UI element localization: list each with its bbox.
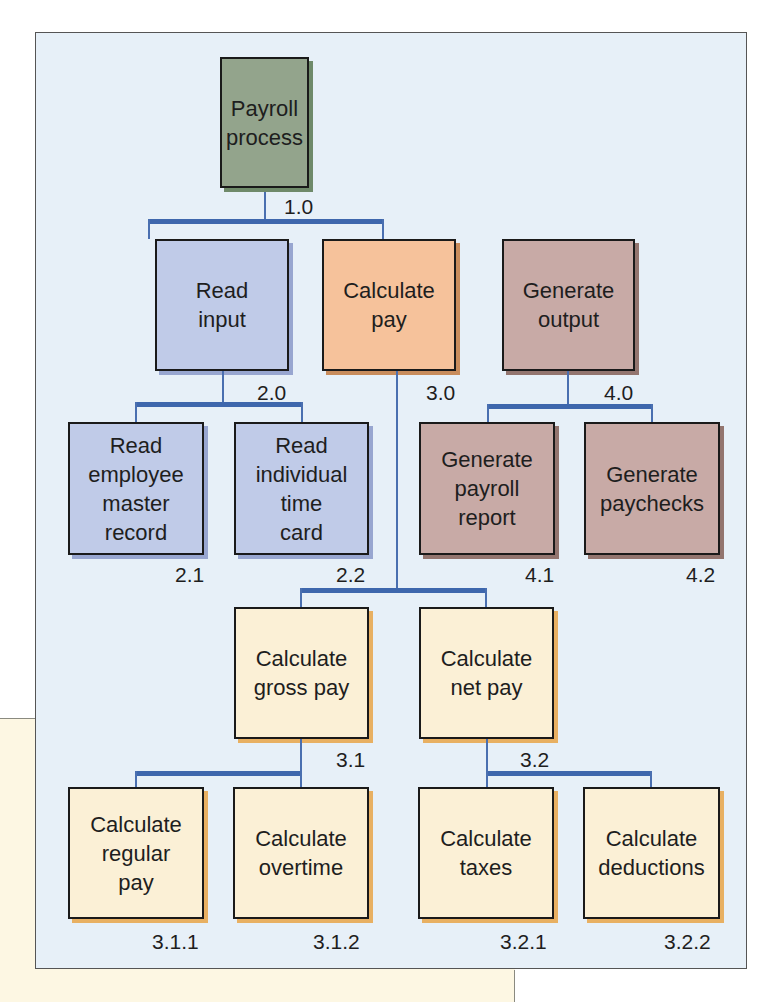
- node-number: 3.1: [336, 748, 365, 772]
- node-label: Read input: [196, 276, 249, 334]
- connector: [486, 739, 488, 775]
- connector: [300, 588, 486, 593]
- node-label: Calculate net pay: [441, 644, 533, 702]
- node-number: 2.2: [336, 563, 365, 587]
- node-calculate-gross: Calculate gross pay: [234, 607, 369, 739]
- node-generate-output: Generate output: [502, 239, 635, 371]
- node-label: Read employee master record: [88, 431, 183, 547]
- node-number: 3.2.2: [664, 930, 711, 954]
- node-number: 3.1.1: [152, 930, 199, 954]
- node-calculate-deductions: Calculate deductions: [583, 787, 720, 919]
- node-label: Generate output: [523, 276, 615, 334]
- node-read-time-card: Read individual time card: [234, 422, 369, 555]
- connector: [396, 371, 398, 590]
- connector: [485, 588, 487, 608]
- connector: [148, 219, 384, 224]
- node-label: Calculate regular pay: [90, 810, 182, 897]
- connector: [135, 402, 137, 423]
- node-number: 3.0: [426, 381, 455, 405]
- node-calculate-overtime: Calculate overtime: [233, 787, 369, 919]
- node-calculate-pay: Calculate pay: [322, 239, 456, 371]
- node-label: Calculate overtime: [255, 824, 347, 882]
- node-generate-paychecks: Generate paychecks: [584, 422, 720, 555]
- connector: [487, 404, 489, 424]
- connector: [148, 219, 150, 239]
- node-label: Payroll process: [226, 94, 303, 152]
- node-label: Generate payroll report: [441, 445, 533, 532]
- node-label: Calculate deductions: [598, 824, 704, 882]
- connector: [264, 188, 266, 221]
- node-number: 4.0: [604, 381, 633, 405]
- node-number: 2.1: [175, 563, 204, 587]
- node-generate-report: Generate payroll report: [419, 422, 555, 555]
- node-label: Read individual time card: [256, 431, 348, 547]
- connector: [301, 402, 303, 423]
- node-label: Calculate gross pay: [254, 644, 349, 702]
- connector: [567, 371, 569, 405]
- node-number: 1.0: [284, 195, 313, 219]
- node-number: 4.2: [686, 563, 715, 587]
- node-read-input: Read input: [155, 239, 289, 371]
- connector: [486, 771, 652, 776]
- panel-edge: [0, 718, 35, 719]
- panel-edge: [514, 970, 515, 1002]
- connector: [135, 771, 302, 776]
- node-number: 3.1.2: [313, 930, 360, 954]
- connector: [382, 219, 384, 239]
- node-calculate-net: Calculate net pay: [419, 607, 554, 739]
- connector: [651, 404, 653, 424]
- node-calculate-regular: Calculate regular pay: [68, 787, 204, 919]
- node-label: Calculate taxes: [440, 824, 532, 882]
- connector: [135, 402, 302, 407]
- node-read-employee-master: Read employee master record: [68, 422, 204, 555]
- node-calculate-taxes: Calculate taxes: [418, 787, 554, 919]
- node-label: Generate paychecks: [600, 460, 704, 518]
- node-number: 3.2.1: [500, 930, 547, 954]
- node-number: 3.2: [520, 748, 549, 772]
- node-number: 4.1: [525, 563, 554, 587]
- connector: [300, 588, 302, 608]
- connector: [222, 371, 224, 403]
- connector: [300, 739, 302, 775]
- node-label: Calculate pay: [343, 276, 435, 334]
- connector: [487, 404, 653, 409]
- node-root: Payroll process: [220, 57, 309, 188]
